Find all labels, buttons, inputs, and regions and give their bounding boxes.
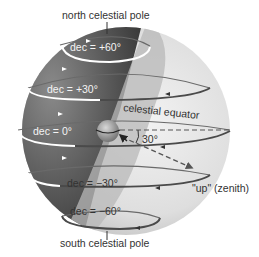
zenith-label: "up" (zenith) [192,182,249,194]
dec-plus-60-label: dec = +60° [70,41,121,53]
north-celestial-pole-label: north celestial pole [62,9,150,21]
earth [97,120,119,142]
south-celestial-pole-label: south celestial pole [60,237,149,249]
dec-0-label: dec = 0° [33,125,72,137]
dec-minus-30-label: dec = −30° [67,177,118,189]
dec-plus-30-label: dec = +30° [47,83,98,95]
dec-minus-60-label: dec = −60° [70,205,121,217]
angle-30-label: 30° [142,133,158,145]
celestial-sphere-diagram: north celestial pole south celestial pol… [0,0,259,257]
